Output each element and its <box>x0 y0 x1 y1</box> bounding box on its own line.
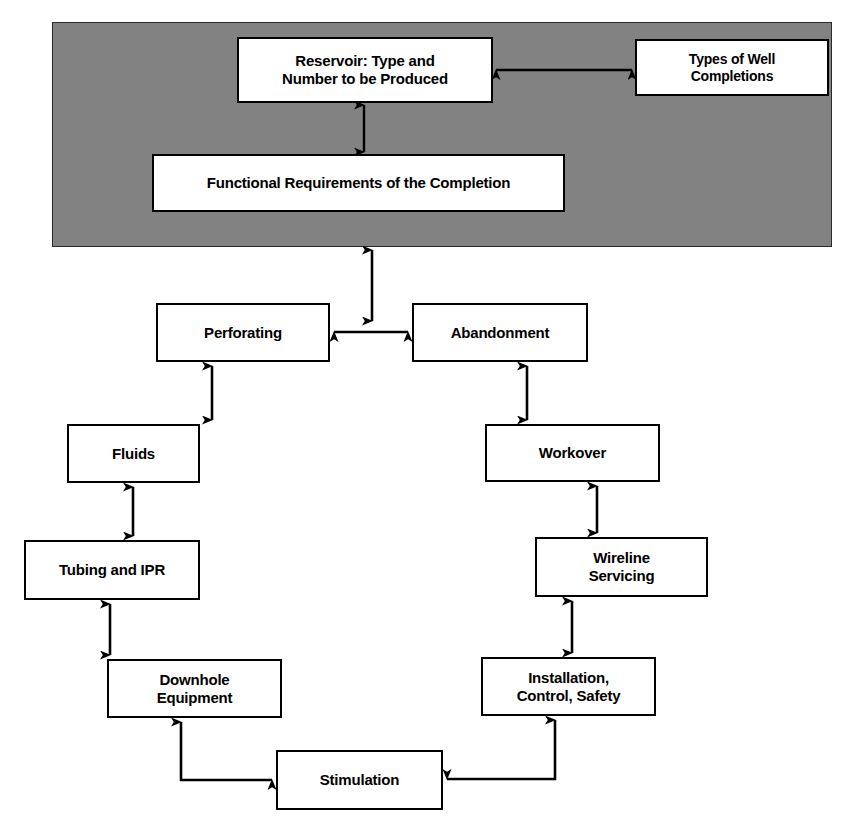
node-label-wireline-servicing: Wireline Servicing <box>589 549 655 584</box>
node-label-workover: Workover <box>539 444 606 462</box>
node-wireline-servicing[interactable]: Wireline Servicing <box>535 537 708 597</box>
connector-downhole-equipment-to-stimulation <box>181 722 272 780</box>
node-label-functional-requirements: Functional Requirements of the Completio… <box>207 174 510 192</box>
node-reservoir[interactable]: Reservoir: Type and Number to be Produce… <box>238 38 492 102</box>
node-label-tubing-and-ipr: Tubing and IPR <box>59 561 165 579</box>
node-fluids[interactable]: Fluids <box>67 424 200 483</box>
node-label-perforating: Perforating <box>204 324 282 342</box>
node-label-reservoir: Reservoir: Type and Number to be Produce… <box>282 52 448 87</box>
node-label-fluids: Fluids <box>112 445 155 463</box>
node-well-completions[interactable]: Types of Well Completions <box>636 40 828 95</box>
diagram-canvas: Reservoir: Type and Number to be Produce… <box>0 0 843 835</box>
node-label-stimulation: Stimulation <box>320 771 399 789</box>
node-perforating[interactable]: Perforating <box>156 303 330 362</box>
node-stimulation[interactable]: Stimulation <box>276 750 443 810</box>
node-label-installation-control-safety: Installation, Control, Safety <box>517 669 621 704</box>
node-workover[interactable]: Workover <box>485 424 660 482</box>
node-label-well-completions: Types of Well Completions <box>689 51 775 84</box>
node-abandonment[interactable]: Abandonment <box>412 303 588 362</box>
node-installation-control-safety[interactable]: Installation, Control, Safety <box>481 657 656 716</box>
node-label-abandonment: Abandonment <box>451 324 550 342</box>
node-tubing-and-ipr[interactable]: Tubing and IPR <box>24 540 200 600</box>
node-label-downhole-equipment: Downhole Equipment <box>157 671 233 706</box>
node-downhole-equipment[interactable]: Downhole Equipment <box>107 659 282 718</box>
node-functional-requirements[interactable]: Functional Requirements of the Completio… <box>153 155 564 211</box>
connector-installation-to-stimulation <box>447 720 555 779</box>
